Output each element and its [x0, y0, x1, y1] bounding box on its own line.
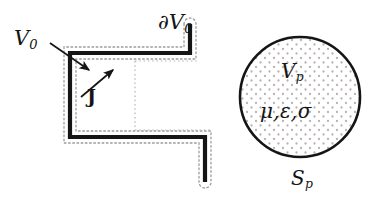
- inner-dotted-edges: [135, 61, 212, 130]
- current-density-arrow: [81, 70, 113, 97]
- particle-circle: [240, 37, 360, 157]
- label-current-density: J: [87, 87, 96, 106]
- figure-canvas: V0 ∂V0 J Vp μ,ε,σ Sp: [0, 0, 376, 208]
- label-particle-surface: Sp: [291, 168, 313, 191]
- label-source-boundary: ∂V0: [158, 12, 193, 35]
- label-particle-volume: Vp: [281, 61, 304, 84]
- label-source-region: V0: [14, 28, 38, 51]
- label-material-parameters: μ,ε,σ: [260, 101, 312, 121]
